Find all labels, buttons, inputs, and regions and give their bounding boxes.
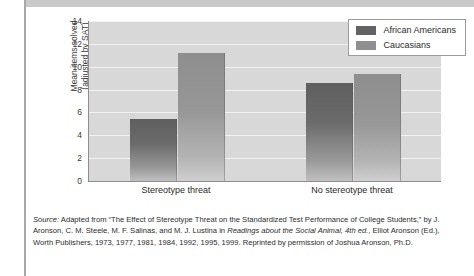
y-axis-tick-label: 12 bbox=[73, 39, 82, 49]
legend-item-african-americans: African Americans bbox=[356, 25, 456, 35]
bar-chart: Mean items solved (adjusted by SAT) 0246… bbox=[26, 9, 474, 205]
x-axis-label: No stereotype threat bbox=[311, 185, 393, 195]
y-axis-tick-label: 4 bbox=[77, 130, 82, 140]
y-axis-tick-label: 10 bbox=[73, 62, 82, 72]
gridline bbox=[89, 67, 441, 68]
legend-item-caucasians: Caucasians bbox=[356, 40, 456, 50]
y-axis-tick-label: 8 bbox=[77, 85, 82, 95]
caption-italic-title: Readings about the Social Animal, 4th ed… bbox=[227, 226, 368, 235]
y-axis-tick-label: 14 bbox=[73, 16, 82, 26]
y-axis-ticks: 02468101214 bbox=[62, 21, 84, 181]
figure-caption: Source: Adapted from “The Effect of Ster… bbox=[33, 214, 461, 248]
bar bbox=[178, 53, 225, 181]
bar bbox=[306, 83, 353, 181]
x-axis-labels: Stereotype threatNo stereotype threat bbox=[88, 185, 440, 201]
y-axis-tick-label: 2 bbox=[77, 153, 82, 163]
legend-swatch-icon bbox=[356, 26, 376, 35]
legend-label: Caucasians bbox=[383, 40, 430, 50]
y-axis-tick-label: 0 bbox=[77, 176, 82, 186]
y-axis-tick-label: 6 bbox=[77, 107, 82, 117]
caption-source-word: Source: bbox=[33, 215, 59, 224]
legend-label: African Americans bbox=[383, 25, 456, 35]
page-top-band bbox=[26, 0, 474, 7]
legend: African Americans Caucasians bbox=[348, 19, 466, 56]
x-axis-label: Stereotype threat bbox=[141, 185, 210, 195]
bar bbox=[130, 119, 177, 181]
bar bbox=[354, 74, 401, 181]
figure-container: Mean items solved (adjusted by SAT) 0246… bbox=[0, 0, 474, 276]
legend-swatch-icon bbox=[356, 41, 376, 50]
